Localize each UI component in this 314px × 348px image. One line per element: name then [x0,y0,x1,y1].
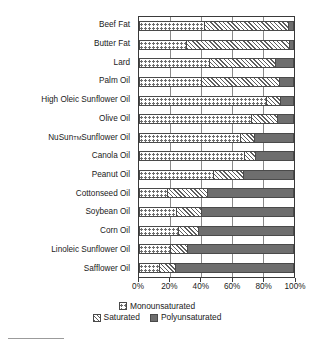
bar-segment-saturated [178,226,198,236]
bar-segment-monounsaturated [139,21,204,31]
stacked-bar [139,170,294,180]
bar-segment-saturated [201,77,279,87]
y-axis-label: Canola Oil [0,147,134,166]
y-axis-label: Lard [0,53,134,72]
bar-segment-polyunsaturated [198,226,294,236]
bar-segment-monounsaturated [139,133,240,143]
legend-label: Monounsaturated [130,302,195,310]
legend-swatch-monounsaturated [119,302,127,310]
bar-segment-polyunsaturated [275,58,294,68]
bar-segment-saturated [213,170,242,180]
bar-segment-polyunsaturated [288,21,294,31]
bar-segment-saturated [209,58,276,68]
bar-segment-polyunsaturated [255,151,294,161]
bar-segment-monounsaturated [139,58,209,68]
bar-segment-monounsaturated [139,96,266,106]
y-axis-label: Corn Oil [0,222,134,241]
x-tick-label: 100% [285,283,306,291]
bar-row [139,166,294,185]
stacked-bar [139,114,294,124]
chart-legend: Monounsaturated SaturatedPolyunsaturated [0,302,314,325]
bar-segment-monounsaturated [139,40,186,50]
stacked-bar [139,96,294,106]
legend-swatch-polyunsaturated [150,314,158,322]
bar-row [139,259,294,278]
chart-plot-area: Beef FatButter FatLardPalm OilHigh Oleic… [0,16,314,278]
y-axis-label: Butter Fat [0,35,134,54]
bar-segment-polyunsaturated [279,77,295,87]
bar-segment-polyunsaturated [187,244,294,254]
bar-segment-polyunsaturated [280,96,294,106]
bar-segment-polyunsaturated [289,40,294,50]
bar-segment-polyunsaturated [207,188,294,198]
bar-segment-saturated [266,96,280,106]
footer-rule [8,338,64,339]
bar-segment-saturated [170,244,187,254]
legend-row-primary: Monounsaturated [0,302,314,310]
legend-item[interactable]: Saturated [93,313,140,321]
bar-row [139,221,294,240]
legend-item[interactable]: Polyunsaturated [150,313,222,321]
stacked-bar [139,133,294,143]
plot-frame [138,16,295,278]
stacked-bar [139,58,294,68]
bar-segment-saturated [240,133,254,143]
bar-segment-monounsaturated [139,151,244,161]
x-axis: 0%20%40%60%80%100% [138,278,295,296]
x-tick-label: 40% [193,283,209,291]
bar-row [139,184,294,203]
y-axis-label: Palm Oil [0,72,134,91]
bar-segment-monounsaturated [139,114,251,124]
y-axis-label: Olive Oil [0,110,134,129]
stacked-bar [139,226,294,236]
bar-row [139,128,294,147]
legend-label: Saturated [104,313,140,321]
bar-segment-monounsaturated [139,207,176,217]
bar-segment-polyunsaturated [201,207,294,217]
bar-segment-saturated [251,114,277,124]
bar-segment-polyunsaturated [175,263,294,273]
bar-row [139,91,294,110]
stacked-bar [139,77,294,87]
bar-segment-monounsaturated [139,263,159,273]
stacked-bar [139,21,294,31]
y-axis-category-labels: Beef FatButter FatLardPalm OilHigh Oleic… [0,16,134,278]
y-axis-label: NuSunTM Sunflower Oil [0,128,134,147]
bar-segment-saturated [159,263,175,273]
stacked-bar [139,188,294,198]
x-tick-label: 0% [132,283,144,291]
x-tick-label: 80% [255,283,271,291]
x-tick-label: 20% [161,283,177,291]
legend-row-secondary: SaturatedPolyunsaturated [0,313,314,321]
stacked-bar-chart-figure: Beef FatButter FatLardPalm OilHigh Oleic… [0,0,314,348]
bar-segment-saturated [176,207,201,217]
legend-swatch-saturated [93,314,101,322]
stacked-bar [139,263,294,273]
bar-row [139,147,294,166]
bar-segment-monounsaturated [139,77,201,87]
stacked-bar [139,244,294,254]
bar-rows [139,17,294,277]
stacked-bar [139,151,294,161]
y-axis-label: Peanut Oil [0,166,134,185]
bar-row [139,54,294,73]
bar-segment-polyunsaturated [254,133,294,143]
bar-row [139,110,294,129]
legend-label: Polyunsaturated [161,313,222,321]
y-axis-label: High Oleic Sunflower Oil [0,91,134,110]
y-axis-label: Linoleic Sunflower Oil [0,241,134,260]
y-axis-label: Beef Fat [0,16,134,35]
bar-row [139,73,294,92]
stacked-bar [139,40,294,50]
legend-item[interactable]: Monounsaturated [119,302,195,310]
bar-segment-polyunsaturated [277,114,294,124]
bar-segment-polyunsaturated [243,170,294,180]
bar-row [139,240,294,259]
stacked-bar [139,207,294,217]
bar-segment-saturated [186,40,290,50]
bar-segment-monounsaturated [139,226,178,236]
bar-segment-monounsaturated [139,244,170,254]
y-axis-label: Soybean Oil [0,203,134,222]
y-axis-label: Safflower Oil [0,259,134,278]
bar-row [139,36,294,55]
